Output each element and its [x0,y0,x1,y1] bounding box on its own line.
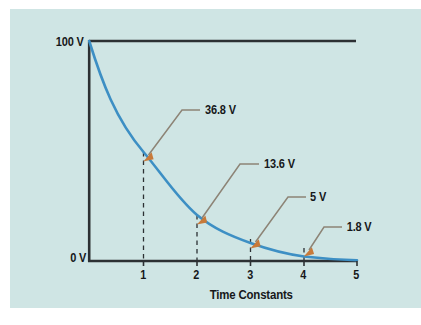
y-axis-top-label: 100 V [56,36,84,49]
annotation-leader-5v [250,197,306,249]
x-tick-label-2: 2 [193,269,199,281]
x-tick-label-5: 5 [353,269,359,281]
x-axis-title: Time Constants [210,288,293,301]
screenshot-root: 100 V 0 V 36.8 V 13.6 V 5 V 1.8 V 1 2 3 … [0,0,421,325]
annotation-label-13-6v: 13.6 V [264,158,295,171]
annotation-leader-1-8v [304,227,342,257]
chart-panel: 100 V 0 V 36.8 V 13.6 V 5 V 1.8 V 1 2 3 … [10,9,421,308]
annotation-label-5v: 5 V [310,191,326,204]
x-tick-label-1: 1 [140,269,146,281]
annotation-label-36-8v: 36.8 V [205,104,236,117]
x-tick-label-4: 4 [300,269,306,281]
decay-curve [89,41,357,260]
annotation-leader-13-6v [197,164,259,225]
annotation-label-1-8v: 1.8 V [347,221,372,234]
y-axis-bottom-label: 0 V [70,252,86,265]
x-tick-label-3: 3 [247,269,253,281]
annotation-leader-36-8v [143,110,200,162]
